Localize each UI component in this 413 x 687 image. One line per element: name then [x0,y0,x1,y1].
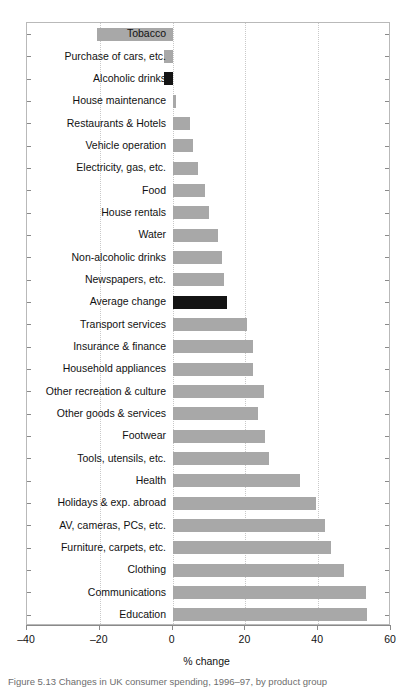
category-label: Tobacco [22,27,166,39]
row-tick-right [385,324,389,325]
x-tick-label: 60 [384,633,396,645]
bar [173,497,317,510]
category-label: Alcoholic drinks [22,72,166,84]
category-axis-labels: TobaccoPurchase of cars, etc.Alcoholic d… [16,22,166,625]
bar [173,474,300,487]
row-tick-right [385,481,389,482]
row-tick-right [385,369,389,370]
bar [173,162,198,175]
x-axis-title: % change [0,655,413,667]
bar [173,407,259,420]
category-label: Vehicle operation [22,139,166,151]
bar [173,452,269,465]
bar [173,95,176,108]
row-tick-right [385,190,389,191]
category-label: Other recreation & culture [22,385,166,397]
category-label: Transport services [22,318,166,330]
row-tick-right [385,56,389,57]
row-tick-right [385,101,389,102]
category-label: Purchase of cars, etc. [22,50,166,62]
row-tick-right [385,503,389,504]
row-tick-right [385,391,389,392]
category-label: Electricity, gas, etc. [22,161,166,173]
figure-caption: Figure 5.13 Changes in UK consumer spend… [8,676,408,687]
category-label: Holidays & exp. abroad [22,496,166,508]
bar [173,206,209,219]
category-label: House maintenance [22,94,166,106]
row-tick-right [385,414,389,415]
x-tick-label: –20 [90,633,108,645]
category-label: Other goods & services [22,407,166,419]
category-label: Education [22,608,166,620]
row-tick-right [385,458,389,459]
bar [173,184,206,197]
category-label: Water [22,228,166,240]
row-tick-right [385,280,389,281]
category-label: Restaurants & Hotels [22,117,166,129]
x-tick-label: 20 [239,633,251,645]
row-tick-right [385,548,389,549]
category-label: Non-alcoholic drinks [22,251,166,263]
x-tick [317,625,318,630]
bar [173,519,326,532]
row-tick-right [385,570,389,571]
row-tick-right [385,615,389,616]
bar [173,251,222,264]
bar [173,296,228,309]
row-tick-right [385,525,389,526]
bar [173,340,253,353]
category-label: Health [22,474,166,486]
category-label: Average change [22,295,166,307]
x-tick [99,625,100,630]
x-axis: –40–200204060 [26,625,390,626]
row-tick-right [385,347,389,348]
x-tick-label: 40 [311,633,323,645]
x-tick [390,625,391,630]
category-label: Household appliances [22,362,166,374]
category-label: Footwear [22,429,166,441]
category-label: Tools, utensils, etc. [22,452,166,464]
row-tick-right [385,213,389,214]
category-label: Communications [22,586,166,598]
bar [173,541,331,554]
bar [173,385,264,398]
category-label: Insurance & finance [22,340,166,352]
x-tick [244,625,245,630]
row-tick-right [385,34,389,35]
x-tick-label: –40 [17,633,35,645]
bar [173,564,344,577]
row-tick-right [385,257,389,258]
bar [173,586,366,599]
bar [173,363,253,376]
category-label: Furniture, carpets, etc. [22,541,166,553]
row-tick-right [385,79,389,80]
x-tick [172,625,173,630]
row-tick-right [385,302,389,303]
row-tick-right [385,168,389,169]
bar [173,430,266,443]
row-tick-right [385,123,389,124]
bar [173,273,224,286]
bar [173,608,368,621]
bar [173,139,193,152]
category-label: House rentals [22,206,166,218]
category-label: AV, cameras, PCs, etc. [22,519,166,531]
category-label: Clothing [22,563,166,575]
bar [173,229,219,242]
x-tick-label: 0 [169,633,175,645]
bar [173,318,248,331]
row-tick-right [385,592,389,593]
row-tick-right [385,146,389,147]
category-label: Newspapers, etc. [22,273,166,285]
bar [173,117,190,130]
x-tick [26,625,27,630]
row-tick-right [385,235,389,236]
row-tick-right [385,436,389,437]
category-label: Food [22,184,166,196]
